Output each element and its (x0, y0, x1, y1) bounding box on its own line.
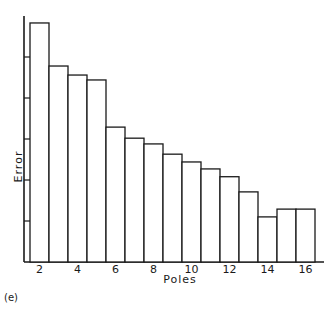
bar-poles-7 (125, 138, 144, 262)
x-tick-label: 12 (218, 263, 242, 276)
bar-poles-14 (258, 217, 277, 262)
bar-poles-2 (30, 23, 49, 262)
x-tick-label: 8 (142, 263, 166, 276)
bar-poles-15 (277, 209, 296, 262)
y-axis-label: Error (12, 147, 25, 187)
bar-poles-16 (296, 209, 315, 262)
error-vs-poles-chart: Error Poles (e) 246810121416 (0, 0, 336, 315)
bar-poles-8 (144, 144, 163, 262)
x-tick-label: 4 (66, 263, 90, 276)
bar-poles-13 (239, 192, 258, 262)
bar-poles-12 (220, 177, 239, 262)
bar-poles-4 (68, 75, 87, 262)
bar-poles-10 (182, 162, 201, 262)
x-tick-label: 6 (104, 263, 128, 276)
panel-label: (e) (4, 292, 18, 303)
x-tick-label: 14 (256, 263, 280, 276)
x-tick-label: 2 (28, 263, 52, 276)
bar-poles-6 (106, 127, 125, 262)
bar-poles-9 (163, 154, 182, 262)
bar-poles-3 (49, 66, 68, 262)
bar-poles-5 (87, 80, 106, 262)
x-tick-label: 10 (180, 263, 204, 276)
bar-poles-11 (201, 169, 220, 262)
x-tick-label: 16 (294, 263, 318, 276)
